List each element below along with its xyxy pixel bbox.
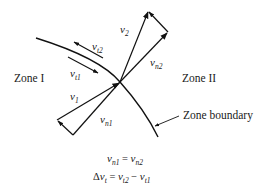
vn1-line bbox=[73, 82, 120, 135]
equation-normal-continuity: vn1 = vn2 bbox=[107, 152, 143, 167]
vn2-label: vn2 bbox=[150, 56, 163, 71]
vt1-label: vt1 bbox=[70, 67, 81, 82]
vn2-arrow bbox=[120, 33, 167, 82]
zone-2-label: Zone II bbox=[182, 72, 216, 84]
v2-label: v2 bbox=[120, 23, 129, 38]
zone-1-label: Zone I bbox=[14, 72, 45, 84]
boundary-leader-line bbox=[155, 116, 179, 126]
zone-boundary-label: Zone boundary bbox=[183, 109, 253, 122]
vt1-component-arrow bbox=[58, 121, 73, 135]
vt2-component-arrow bbox=[149, 12, 168, 32]
shock-velocity-diagram: Zone I Zone II Zone boundary vt2 vt1 v1 … bbox=[0, 0, 270, 191]
vn1-label: vn1 bbox=[100, 113, 112, 128]
equation-tangential-jump: Δvt = vt2 − vt1 bbox=[93, 170, 151, 185]
v1-arrow bbox=[57, 83, 119, 120]
v1-label: v1 bbox=[70, 90, 79, 105]
